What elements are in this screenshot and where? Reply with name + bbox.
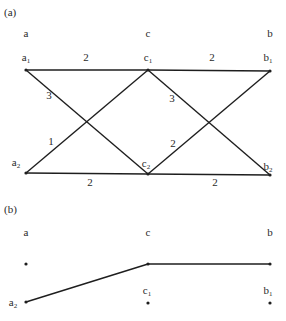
network-diagram-figure: (a) acb 22313222 a1c1b1a2c2b2 (b) acb a2… — [0, 0, 286, 321]
edge-a2-c2 — [26, 173, 148, 174]
panel-b: (b) acb a2c1b1 — [4, 203, 273, 310]
edge-weight-a2-c1: 1 — [48, 135, 54, 147]
edge-weight-c2-b2: 2 — [212, 176, 218, 188]
panel-a-edge-weights: 22313222 — [46, 51, 218, 188]
column-header-a: a — [24, 226, 29, 238]
node-label-b1: b1 — [264, 51, 274, 65]
edge-weight-c1-b2: 3 — [169, 92, 175, 104]
node-label-b2: b2 — [264, 160, 274, 174]
node-c2 — [146, 172, 149, 175]
node-label-a1: a1 — [22, 51, 31, 65]
node-label-c1: c1 — [144, 51, 153, 65]
panel-b-column-headers: acb — [24, 226, 274, 238]
panel-a: (a) acb 22313222 a1c1b1a2c2b2 — [4, 6, 273, 188]
node-a2 — [24, 300, 27, 303]
edge-weight-c1-b1: 2 — [209, 51, 215, 63]
node-a1 — [24, 68, 27, 71]
edge-a2-c — [26, 264, 148, 302]
edge-weight-a1-c1: 2 — [83, 51, 89, 63]
node-label-b1: b1 — [264, 284, 274, 298]
node-a — [24, 262, 27, 265]
node-label-a2: a2 — [9, 296, 18, 310]
edge-weight-c2-b1: 2 — [170, 137, 176, 149]
column-header-b: b — [267, 27, 273, 39]
panel-b-nodes: a2c1b1 — [9, 262, 273, 310]
column-header-a: a — [24, 27, 29, 39]
node-c1 — [146, 301, 149, 304]
edge-weight-a2-c2: 2 — [87, 176, 93, 188]
node-b1 — [268, 69, 271, 72]
node-b — [268, 262, 271, 265]
column-header-c: c — [146, 226, 151, 238]
column-header-c: c — [146, 27, 151, 39]
edge-weight-a1-c2: 3 — [46, 89, 52, 101]
edge-c2-b2 — [148, 174, 270, 175]
panel-a-column-headers: acb — [24, 27, 274, 39]
panel-a-edges — [26, 70, 270, 175]
panel-b-label: (b) — [4, 203, 17, 216]
diagram-canvas: (a) acb 22313222 a1c1b1a2c2b2 (b) acb a2… — [0, 0, 286, 321]
node-a2 — [24, 171, 27, 174]
column-header-b: b — [267, 226, 273, 238]
node-label-c2: c2 — [142, 157, 151, 171]
edge-c1-b1 — [148, 70, 270, 71]
node-label-c1: c1 — [143, 284, 152, 298]
node-c — [146, 262, 149, 265]
node-b1 — [268, 301, 271, 304]
node-c1 — [146, 68, 149, 71]
node-label-a2: a2 — [12, 156, 21, 170]
panel-a-label: (a) — [4, 6, 17, 19]
